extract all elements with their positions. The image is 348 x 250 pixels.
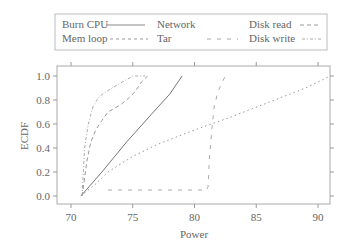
y-tick-label: 0.6 <box>36 118 50 130</box>
series-mem-loop <box>81 76 330 196</box>
y-tick-label: 0.4 <box>36 142 50 154</box>
x-tick-label: 75 <box>127 211 139 223</box>
legend-label-disk-write: Disk write <box>249 32 295 44</box>
series-tar <box>108 76 225 190</box>
legend-label-disk-read: Disk read <box>249 18 292 30</box>
y-axis: 0.00.20.40.60.81.0 <box>36 70 334 202</box>
x-tick-label: 85 <box>251 211 263 223</box>
ecdf-chart: Burn CPU Network Disk read Mem loop Tar … <box>0 0 348 250</box>
x-tick-label: 80 <box>189 211 201 223</box>
plot-frame <box>57 66 330 204</box>
x-axis: 7075808590 <box>66 62 325 223</box>
x-tick-label: 70 <box>66 211 78 223</box>
y-tick-label: 0.0 <box>36 190 50 202</box>
series-burn-cpu <box>81 76 182 196</box>
x-tick-label: 90 <box>313 211 325 223</box>
y-tick-label: 0.2 <box>36 166 50 178</box>
x-axis-label: Power <box>180 228 208 240</box>
series-disk-read <box>82 76 148 196</box>
series-disk-write <box>82 76 145 196</box>
legend-label-mem-loop: Mem loop <box>62 32 108 44</box>
legend-label-tar: Tar <box>157 32 172 44</box>
y-axis-label: ECDF <box>18 122 30 150</box>
series-lines <box>81 76 330 196</box>
y-tick-label: 0.8 <box>36 94 50 106</box>
y-tick-label: 1.0 <box>36 70 50 82</box>
legend-label-network: Network <box>157 18 196 30</box>
legend-label-burn-cpu: Burn CPU <box>62 18 108 30</box>
